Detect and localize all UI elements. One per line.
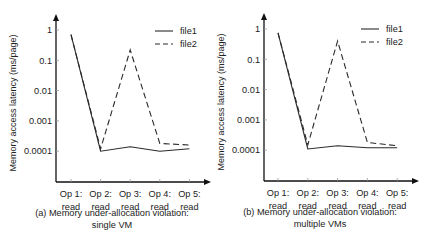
x-axis-arrow-icon bbox=[412, 178, 419, 184]
series-line-file1 bbox=[71, 35, 189, 152]
y-tick-label: 0.01 bbox=[34, 86, 52, 96]
x-tick-label: Op 5: bbox=[178, 189, 200, 199]
legend-label-file1: file1 bbox=[180, 26, 197, 36]
x-tick-label: Op 1: bbox=[60, 189, 82, 199]
y-tick-label: 0.0001 bbox=[232, 145, 260, 155]
y-tick-label: 0.1 bbox=[247, 55, 260, 65]
chart-caption: (b) Memory under-allocation violation: m… bbox=[220, 206, 420, 230]
chart-panel-single-vm: 10.10.010.0010.0001Op 1:readOp 2:readOp … bbox=[0, 0, 214, 247]
y-tick-label: 0.0001 bbox=[24, 146, 52, 156]
x-tick-label: Op 2: bbox=[297, 188, 319, 198]
x-tick-label: Op 2: bbox=[89, 189, 111, 199]
caption-line-2: multiple VMs bbox=[220, 218, 420, 230]
caption-line-1: (b) Memory under-allocation violation: bbox=[220, 206, 420, 218]
series-line-file2 bbox=[71, 35, 189, 149]
x-tick-label: Op 1: bbox=[267, 188, 289, 198]
y-axis-label: Memory access latency (ms/page) bbox=[8, 28, 18, 178]
y-tick-label: 0.1 bbox=[39, 56, 52, 66]
y-tick-label: 1 bbox=[255, 24, 260, 34]
chart-caption: (a) Memory under-allocation violation: s… bbox=[12, 207, 212, 231]
x-tick-label: Op 4: bbox=[356, 188, 378, 198]
y-axis-arrow-icon bbox=[261, 13, 267, 20]
y-tick-label: 0.001 bbox=[237, 115, 260, 125]
y-tick-label: 1 bbox=[47, 25, 52, 35]
legend-label-file2: file2 bbox=[180, 39, 197, 49]
legend-label-file1: file1 bbox=[386, 24, 403, 34]
x-tick-label: Op 3: bbox=[119, 189, 141, 199]
y-axis-arrow-icon bbox=[53, 14, 59, 21]
x-tick-label: Op 5: bbox=[386, 188, 408, 198]
series-line-file2 bbox=[278, 33, 397, 146]
y-tick-label: 0.01 bbox=[242, 85, 260, 95]
caption-line-2: single VM bbox=[12, 219, 212, 231]
x-tick-label: Op 3: bbox=[326, 188, 348, 198]
series-line-file1 bbox=[278, 33, 397, 149]
legend-label-file2: file2 bbox=[386, 37, 403, 47]
x-tick-label: Op 4: bbox=[149, 189, 171, 199]
y-tick-label: 0.001 bbox=[29, 116, 52, 126]
caption-line-1: (a) Memory under-allocation violation: bbox=[12, 207, 212, 219]
y-axis-label: Memory access latency (ms/page) bbox=[216, 27, 226, 177]
chart-panel-multiple-vms: 10.10.010.0010.0001Op 1:readOp 2:readOp … bbox=[208, 0, 422, 247]
